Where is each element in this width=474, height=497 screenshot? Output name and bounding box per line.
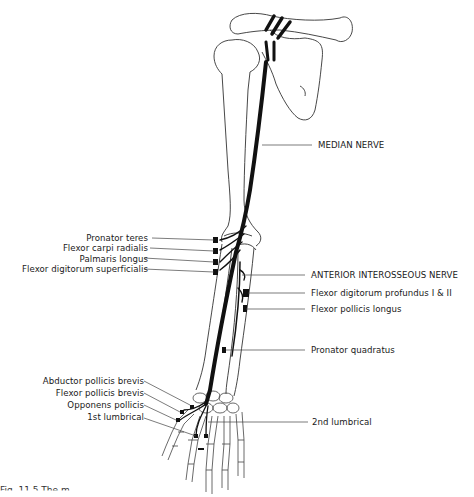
label-flexor-carpi-radialis: Flexor carpi radialis	[63, 243, 148, 253]
label-2nd-lumbrical: 2nd lumbrical	[312, 417, 372, 427]
label-opponens-pollicis: Opponens pollicis	[67, 400, 144, 410]
humerus-bone	[214, 40, 261, 247]
scapula-bone	[262, 30, 322, 120]
label-palmaris-longus: Palmaris longus	[80, 254, 148, 264]
label-flexor-digitorum-profundus: Flexor digitorum profundus I & II	[311, 288, 452, 298]
label-pronator-teres: Pronator teres	[86, 233, 148, 243]
median-nerve-path	[180, 16, 290, 436]
label-flexor-pollicis-brevis: Flexor pollicis brevis	[56, 388, 144, 398]
label-abductor-pollicis-brevis: Abductor pollicis brevis	[43, 376, 144, 386]
label-flexor-digitorum-superficialis: Flexor digitorum superficialis	[22, 264, 148, 274]
label-anterior-interosseous-nerve: ANTERIOR INTEROSSEOUS NERVE	[311, 270, 458, 280]
label-median-nerve: MEDIAN NERVE	[318, 140, 384, 150]
clavicle-bone	[230, 13, 352, 41]
label-1st-lumbrical: 1st lumbrical	[87, 412, 144, 422]
carpal-bones	[193, 391, 239, 413]
label-flexor-pollicis-longus: Flexor pollicis longus	[311, 304, 402, 314]
hand-bones	[162, 410, 244, 494]
forearm-bones	[196, 244, 256, 396]
label-pronator-quadratus: Pronator quadratus	[311, 345, 395, 355]
